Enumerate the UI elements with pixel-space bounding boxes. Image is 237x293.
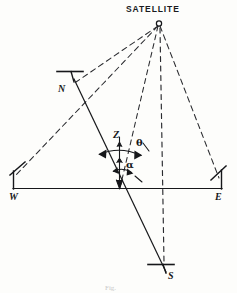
north-stem bbox=[71, 72, 74, 83]
alpha-outer-tick bbox=[135, 176, 142, 182]
east-label: E bbox=[215, 192, 222, 202]
north-label: N bbox=[58, 84, 65, 94]
zenith-angle-arrow-right-icon bbox=[134, 151, 142, 160]
figure-root: SATELLITE N S W E Z θ α Fig. bbox=[0, 0, 237, 293]
nadir-vertical-line bbox=[160, 28, 164, 262]
south-stem bbox=[163, 265, 166, 274]
zenith-upper-tick-icon bbox=[117, 142, 122, 147]
zenith-angle-arrow-left-icon bbox=[98, 150, 106, 159]
elevation-angle-label: α bbox=[126, 160, 134, 170]
satellite-title-label: SATELLITE bbox=[126, 5, 180, 14]
ray-satellite-east-line bbox=[160, 26, 219, 178]
south-label: S bbox=[168, 271, 174, 281]
zenith-label: Z bbox=[113, 130, 119, 141]
west-label: W bbox=[9, 192, 18, 202]
elevation-angle-arrow-left-icon bbox=[112, 167, 118, 174]
theta-outer-tick bbox=[143, 143, 149, 151]
zenith-angle-label: θ bbox=[136, 138, 143, 148]
zenith-mid-tick-icon bbox=[117, 158, 122, 162]
zenith-arrowhead-icon bbox=[116, 180, 122, 188]
figure-caption: Fig. bbox=[105, 285, 116, 292]
satellite-geometry-diagram bbox=[0, 0, 237, 293]
satellite-marker-icon bbox=[156, 21, 161, 26]
ray-satellite-north-line bbox=[76, 26, 158, 82]
